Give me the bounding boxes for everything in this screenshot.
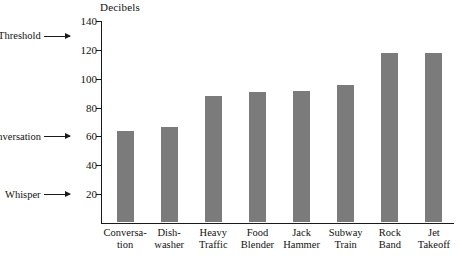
- bar: [381, 53, 398, 222]
- tick-label: 100: [81, 73, 98, 85]
- arrow-icon: [44, 136, 70, 137]
- plot-area: 14012010080604020 Conversa-tionDish-wash…: [101, 21, 454, 223]
- arrow-icon: [44, 36, 70, 37]
- category-label-line2: Takeoff: [403, 239, 460, 251]
- x-axis-line: [101, 223, 454, 224]
- annotation-whisper-text: Whisper: [5, 189, 41, 200]
- annotation-pain-threshold: Pain Threshold: [0, 30, 70, 42]
- annotation-whisper: Whisper: [5, 189, 70, 200]
- bar: [205, 96, 222, 222]
- category-label-line1: Jet: [403, 227, 460, 239]
- decibel-bar-chart: Decibels 14012010080604020 Conversa-tion…: [0, 0, 460, 256]
- annotation-pain-threshold-text: Pain Threshold: [0, 30, 41, 42]
- annotation-pain-threshold-line2: Threshold: [0, 30, 41, 41]
- tick-label: 140: [81, 15, 98, 27]
- bar: [117, 131, 134, 222]
- bar: [425, 53, 442, 222]
- bar: [161, 127, 178, 222]
- bar: [293, 91, 310, 222]
- annotation-conversation: Conversation: [0, 131, 70, 142]
- tick-label: 40: [86, 159, 97, 171]
- category-label: JetTakeoff: [403, 227, 460, 250]
- y-axis-title: Decibels: [100, 1, 140, 13]
- tick-label: 60: [86, 130, 97, 142]
- bar: [337, 85, 354, 222]
- tick-label: 120: [81, 44, 98, 56]
- bar: [249, 92, 266, 222]
- tick-label: 80: [86, 102, 97, 114]
- tick-label: 20: [86, 188, 97, 200]
- annotation-conversation-text: Conversation: [0, 131, 41, 142]
- arrow-icon: [44, 194, 70, 195]
